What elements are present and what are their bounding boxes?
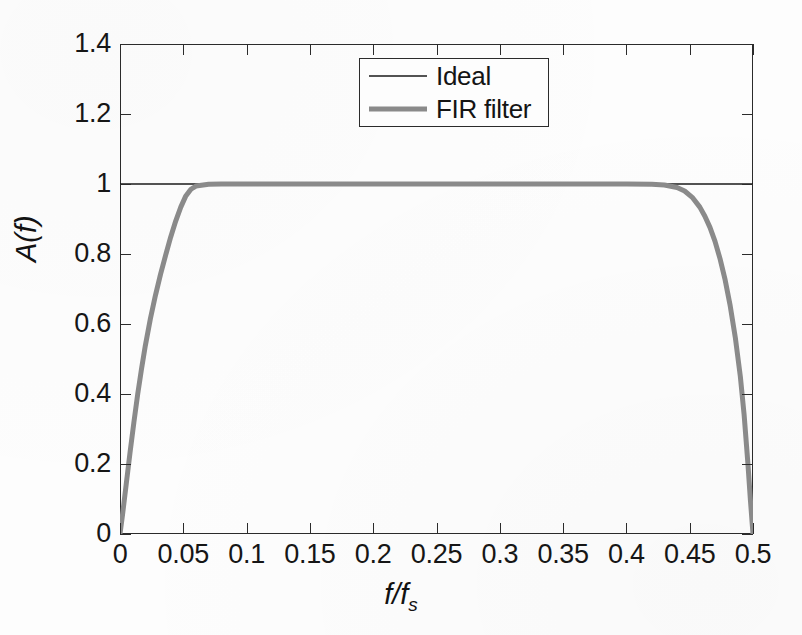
legend-swatch-fir-filter-line — [369, 104, 427, 114]
y-axis-tick-left — [120, 394, 131, 395]
x-axis-tick-top — [753, 44, 754, 55]
y-axis-tick-right — [742, 254, 753, 255]
x-axis-tick-top — [437, 44, 438, 55]
y-axis-tick-label: 1 — [96, 168, 111, 199]
x-axis-tick-label: 0.4 — [608, 539, 645, 570]
x-axis-tick-bottom — [120, 523, 121, 534]
y-axis-tick-right — [742, 184, 753, 185]
y-axis-tick-label: 0.2 — [74, 448, 111, 479]
y-axis-tick-label: 1.4 — [74, 28, 111, 59]
y-axis-tick-label: 1.2 — [74, 98, 111, 129]
y-axis-tick-left — [120, 184, 131, 185]
x-axis-tick-label: 0.05 — [158, 539, 209, 570]
series-group — [120, 184, 753, 534]
figure-canvas: 00.20.40.60.811.21.400.050.10.150.20.250… — [0, 0, 802, 635]
x-axis-tick-label: 0.15 — [284, 539, 335, 570]
x-axis-tick-label: 0.35 — [537, 539, 588, 570]
x-axis-tick-label: 0.1 — [228, 539, 265, 570]
y-axis-tick-left — [120, 324, 131, 325]
y-axis-tick-left — [120, 534, 131, 535]
y-axis-tick-left — [120, 44, 131, 45]
legend-label-ideal: Ideal — [436, 63, 491, 89]
y-axis-tick-label: 0.8 — [74, 238, 111, 269]
y-axis-tick-right — [742, 114, 753, 115]
x-axis-tick-bottom — [373, 523, 374, 534]
legend-entry-fir-filter: FIR filter — [360, 93, 548, 127]
x-axis-tick-top — [310, 44, 311, 55]
x-axis-tick-label: 0.2 — [355, 539, 392, 570]
x-axis-tick-top — [373, 44, 374, 55]
legend-entry-ideal: Ideal — [360, 59, 548, 93]
x-axis-tick-bottom — [183, 523, 184, 534]
x-axis-tick-bottom — [310, 523, 311, 534]
y-axis-label: A(f) — [10, 215, 43, 262]
x-axis-tick-bottom — [626, 523, 627, 534]
y-axis-tick-right — [742, 464, 753, 465]
x-axis-tick-bottom — [563, 523, 564, 534]
y-axis-tick-left — [120, 254, 131, 255]
x-axis-label: f/fs — [0, 578, 802, 616]
x-axis-tick-bottom — [753, 523, 754, 534]
x-axis-tick-top — [626, 44, 627, 55]
x-axis-tick-top — [247, 44, 248, 55]
legend-swatch-ideal-line — [369, 71, 427, 81]
x-axis-tick-label: 0.5 — [735, 539, 772, 570]
legend-box: Ideal FIR filter — [359, 58, 549, 127]
x-axis-tick-label: 0 — [113, 539, 128, 570]
y-axis-tick-left — [120, 114, 131, 115]
y-axis-tick-right — [742, 44, 753, 45]
x-axis-tick-bottom — [247, 523, 248, 534]
x-axis-tick-bottom — [690, 523, 691, 534]
x-axis-tick-top — [690, 44, 691, 55]
y-axis-tick-right — [742, 534, 753, 535]
y-axis-tick-label: 0.6 — [74, 308, 111, 339]
y-axis-tick-label: 0.4 — [74, 378, 111, 409]
x-axis-tick-label: 0.3 — [481, 539, 518, 570]
x-axis-tick-top — [120, 44, 121, 55]
x-axis-label-subscript: s — [408, 594, 418, 615]
legend-label-fir-filter: FIR filter — [436, 96, 531, 122]
x-axis-tick-top — [563, 44, 564, 55]
x-axis-tick-label: 0.45 — [664, 539, 715, 570]
y-axis-tick-right — [742, 394, 753, 395]
x-axis-tick-bottom — [437, 523, 438, 534]
x-axis-label-main: f/f — [384, 578, 408, 610]
x-axis-tick-top — [183, 44, 184, 55]
series-line-fir-filter — [120, 184, 753, 534]
y-axis-tick-label: 0 — [96, 518, 111, 549]
x-axis-tick-bottom — [500, 523, 501, 534]
x-axis-tick-top — [500, 44, 501, 55]
y-axis-tick-left — [120, 464, 131, 465]
x-axis-tick-label: 0.25 — [411, 539, 462, 570]
y-axis-tick-right — [742, 324, 753, 325]
